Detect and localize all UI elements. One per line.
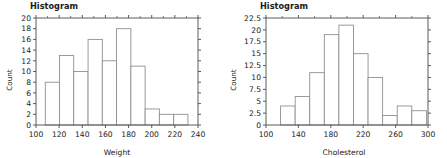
cholesterol-x-axis-label: Cholesterol [323,148,366,157]
x-tick-label: 140 [75,130,90,139]
y-tick-label: 22.5 [244,14,261,23]
weight-y-axis-label: Count [5,69,14,91]
histogram-bar [368,77,383,125]
cholesterol-histogram-panel: Histogram Count Cholesterol 02.557.51012… [224,0,447,158]
y-tick-label: 20 [21,14,31,23]
histogram-bar [159,114,173,125]
y-tick-label: 2.5 [249,109,261,118]
y-tick-label: 16 [21,35,31,44]
y-tick-label: 10 [21,67,31,76]
y-tick-label: 7.5 [249,85,261,94]
x-tick-label: 100 [29,130,44,139]
histogram-bar [412,111,427,125]
histogram-bar [310,73,325,125]
x-tick-label: 220 [356,130,371,139]
cholesterol-y-axis-label: Count [229,69,238,91]
histogram-bar [339,25,354,125]
x-tick-label: 100 [259,130,274,139]
weight-bars-group [45,29,188,125]
histogram-bar [102,61,116,125]
y-tick-label: 12.5 [244,61,261,70]
y-tick-label: 15 [251,49,261,58]
cholesterol-bars-group [281,25,427,125]
weight-x-axis-label: Weight [104,148,130,157]
histogram-bar [353,54,368,125]
histogram-bar [145,109,159,125]
x-tick-label: 260 [388,130,403,139]
y-tick-label: 8 [26,78,31,87]
histogram-bar [88,39,102,125]
histogram-bar [383,115,398,125]
weight-histogram-svg: Histogram Count Weight 02468101214161820… [0,0,224,158]
histogram-bar [295,96,310,125]
histogram-bar [117,29,131,125]
cholesterol-chart-title: Histogram [260,1,308,11]
y-tick-label: 10 [251,73,261,82]
x-tick-label: 140 [291,130,306,139]
histogram-bar [174,114,188,125]
histogram-bar [131,66,145,125]
x-tick-label: 120 [52,130,67,139]
y-tick-label: 17.5 [244,37,261,46]
x-tick-label: 240 [191,130,206,139]
histogram-bar [281,106,296,125]
x-tick-label: 180 [324,130,339,139]
x-tick-label: 220 [168,130,183,139]
y-tick-label: 2 [26,110,31,119]
histogram-figure: Histogram Count Weight 02468101214161820… [0,0,447,158]
y-tick-label: 18 [21,24,31,33]
cholesterol-histogram-svg: Histogram Count Cholesterol 02.557.51012… [224,0,447,158]
weight-chart-title: Histogram [30,1,78,11]
x-tick-label: 160 [98,130,113,139]
histogram-bar [45,82,59,125]
y-tick-label: 0 [26,121,31,130]
histogram-bar [59,55,73,125]
histogram-bar [74,72,88,126]
y-tick-label: 14 [21,46,31,55]
x-tick-label: 200 [144,130,159,139]
y-tick-label: 12 [21,57,31,66]
y-tick-label: 20 [251,26,261,35]
y-tick-label: 0 [256,121,261,130]
y-tick-label: 6 [26,89,31,98]
x-tick-label: 180 [121,130,136,139]
histogram-bar [397,106,412,125]
x-tick-label: 300 [421,130,436,139]
y-tick-label: 4 [26,99,31,108]
y-tick-label: 5 [256,97,261,106]
weight-histogram-panel: Histogram Count Weight 02468101214161820… [0,0,224,158]
histogram-bar [324,35,339,125]
